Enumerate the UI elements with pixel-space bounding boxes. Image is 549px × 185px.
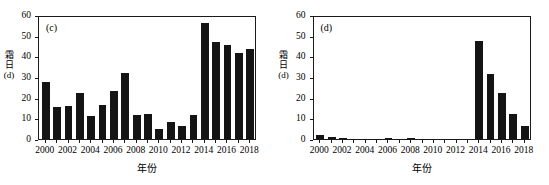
x-tick-mark-2000: [319, 140, 320, 143]
bar-2005: [99, 105, 107, 139]
x-tick-mark-2011: [170, 140, 171, 143]
y-tick-label-50: 50: [22, 31, 32, 41]
x-tick-mark-2012: [181, 140, 182, 143]
y-tick-label-60: 60: [22, 10, 32, 20]
bar-2011: [167, 122, 175, 139]
x-tick-mark-2004: [365, 140, 366, 143]
bar-2016: [498, 93, 506, 140]
x-tick-mark-2011: [444, 140, 445, 143]
x-tick-mark-2004: [90, 140, 91, 143]
bar-2002: [65, 106, 73, 139]
bar-2017: [509, 114, 517, 139]
plot-area-d: [313, 16, 531, 140]
figure-two-panel-bar-charts: 霜 日 (d) 0102030405060 200020022004200620…: [0, 0, 549, 185]
y-axis-label-char-0: 霜: [2, 50, 16, 60]
bar-2002: [339, 138, 347, 139]
x-tick-mark-2017: [512, 140, 513, 143]
y-tick-mark-0: [35, 140, 38, 141]
x-tick-mark-2009: [422, 140, 423, 143]
bar-2006: [385, 138, 393, 139]
y-axis-label-char-1: 日: [277, 60, 291, 70]
y-axis-label-char-0: 霜: [277, 50, 291, 60]
y-tick-label-30: 30: [296, 72, 306, 82]
y-tick-label-50: 50: [296, 31, 306, 41]
panel-label-d: (d): [321, 22, 333, 33]
y-tick-label-10: 10: [22, 113, 32, 123]
bar-2015: [212, 42, 220, 139]
bar-2008: [407, 138, 415, 139]
x-tick-mark-2017: [238, 140, 239, 143]
panel-label-c: (c): [46, 22, 57, 33]
y-tick-mark-50: [310, 37, 313, 38]
x-tick-mark-2018: [249, 140, 250, 143]
y-tick-mark-20: [310, 99, 313, 100]
x-tick-mark-2016: [226, 140, 227, 143]
bar-2012: [178, 126, 186, 139]
x-tick-mark-2000: [45, 140, 46, 143]
x-tick-mark-2003: [353, 140, 354, 143]
y-axis-label-c: 霜 日 (d): [2, 50, 16, 80]
plot-area-c: [38, 16, 256, 140]
bar-2017: [235, 53, 243, 139]
x-tick-mark-2008: [136, 140, 137, 143]
x-tick-mark-2007: [399, 140, 400, 143]
y-tick-mark-60: [310, 16, 313, 17]
bar-2004: [87, 116, 95, 139]
x-tick-mark-2005: [376, 140, 377, 143]
bar-2008: [133, 115, 141, 139]
x-axis-label-d: 年份: [313, 160, 531, 175]
x-tick-mark-2018: [524, 140, 525, 143]
y-tick-label-60: 60: [296, 10, 306, 20]
y-tick-mark-30: [310, 78, 313, 79]
bar-2001: [328, 137, 336, 139]
y-tick-label-30: 30: [22, 72, 32, 82]
panel-c: 霜 日 (d) 0102030405060 200020022004200620…: [0, 0, 275, 185]
y-tick-label-20: 20: [22, 93, 32, 103]
x-tick-mark-2008: [410, 140, 411, 143]
y-tick-mark-30: [35, 78, 38, 79]
y-tick-mark-40: [310, 57, 313, 58]
y-tick-mark-40: [35, 57, 38, 58]
x-tick-mark-2002: [68, 140, 69, 143]
bar-series-d: [314, 17, 530, 139]
bar-2007: [121, 73, 129, 139]
x-tick-mark-2013: [192, 140, 193, 143]
x-tick-mark-2005: [102, 140, 103, 143]
x-tick-mark-2010: [433, 140, 434, 143]
y-tick-mark-20: [35, 99, 38, 100]
bar-2015: [487, 74, 495, 139]
y-tick-label-20: 20: [296, 93, 306, 103]
bar-2014: [201, 23, 209, 139]
x-tick-mark-2014: [204, 140, 205, 143]
x-tick-mark-2016: [501, 140, 502, 143]
bar-2018: [521, 126, 529, 139]
bar-series-c: [39, 17, 255, 139]
x-tick-mark-2006: [113, 140, 114, 143]
bar-2016: [224, 45, 232, 139]
bar-2006: [110, 91, 118, 139]
x-tick-label-2018: 2018: [236, 145, 262, 155]
bar-2009: [144, 114, 152, 139]
x-tick-mark-2006: [387, 140, 388, 143]
y-tick-label-0: 0: [301, 134, 306, 144]
x-tick-mark-2014: [478, 140, 479, 143]
y-axis-label-d: 霜 日 (d): [277, 50, 291, 80]
x-tick-mark-2015: [215, 140, 216, 143]
y-tick-mark-10: [35, 119, 38, 120]
y-tick-label-10: 10: [296, 113, 306, 123]
y-tick-mark-0: [310, 140, 313, 141]
x-tick-mark-2002: [342, 140, 343, 143]
x-tick-mark-2015: [490, 140, 491, 143]
x-tick-mark-2013: [467, 140, 468, 143]
x-tick-mark-2007: [124, 140, 125, 143]
bar-2013: [190, 115, 198, 139]
x-tick-mark-2003: [79, 140, 80, 143]
x-axis-label-c: 年份: [38, 160, 256, 175]
bar-2000: [42, 82, 50, 139]
bar-2000: [316, 135, 324, 139]
x-tick-mark-2001: [56, 140, 57, 143]
bar-2003: [76, 93, 84, 139]
y-tick-label-0: 0: [26, 134, 31, 144]
x-tick-mark-2012: [456, 140, 457, 143]
bar-2010: [155, 129, 163, 139]
